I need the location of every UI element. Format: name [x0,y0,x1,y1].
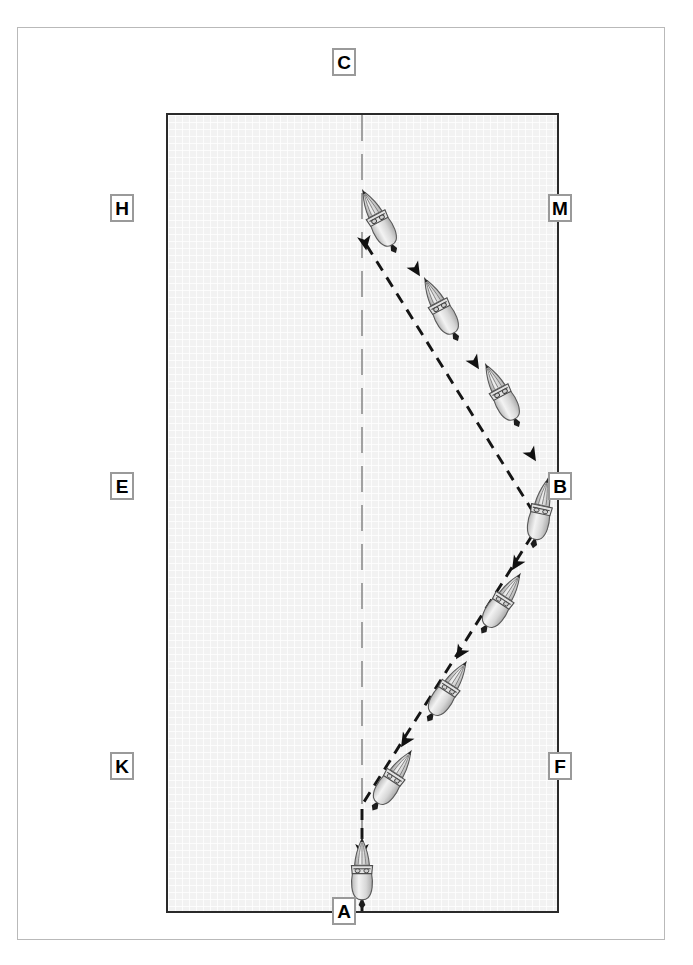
marker-a-label: A [337,902,351,921]
marker-h-label: H [115,199,129,218]
track-arrowhead [466,353,485,373]
marker-c: C [332,48,356,76]
track-arrowhead [407,260,426,280]
marker-m: M [548,194,572,222]
marker-m-label: M [552,199,568,218]
horse-and-rider [473,567,530,639]
marker-f-label: F [554,757,566,776]
marker-e: E [110,472,134,500]
marker-h: H [110,194,134,222]
marker-c-label: C [337,53,351,72]
marker-f: F [548,752,572,780]
marker-e-label: E [116,477,129,496]
arena-overlay [168,115,559,913]
horse-and-rider [364,744,421,816]
marker-b-label: B [553,477,567,496]
track-arrowhead [523,445,542,465]
marker-a: A [332,897,356,925]
horse-and-rider [476,358,529,432]
dressage-arena [166,113,559,913]
movement-track [362,241,540,913]
horse-and-rider [419,655,476,727]
horse-and-rider [353,184,406,258]
track-arrowhead [450,643,469,663]
marker-b: B [548,472,572,500]
marker-k-label: K [115,757,129,776]
marker-k: K [110,752,134,780]
arena-surface [168,115,557,911]
